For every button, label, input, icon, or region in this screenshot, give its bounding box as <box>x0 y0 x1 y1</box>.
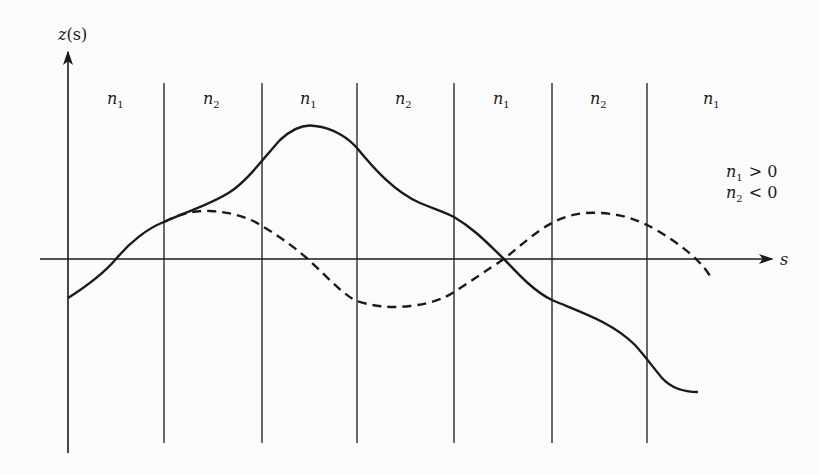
region-label: n1 <box>703 89 720 110</box>
legend: n1> 0 n2< 0 <box>726 162 777 204</box>
region-dividers <box>164 83 647 443</box>
region-label: n2 <box>395 89 412 110</box>
region-label: n2 <box>203 89 220 110</box>
legend-item-n1: n1> 0 <box>726 162 777 183</box>
region-label: n2 <box>590 89 607 110</box>
region-label: n1 <box>300 89 317 110</box>
legend-item-n2: n2< 0 <box>726 183 777 204</box>
region-labels: n1 n2 n1 n2 n1 n2 n1 <box>107 89 720 110</box>
region-label: n1 <box>493 89 510 110</box>
diagram-canvas: z(s) s n1 n2 n1 n2 n1 n2 n1 n1> 0 n2< 0 <box>0 0 819 475</box>
y-axis-label: z(s) <box>57 25 87 44</box>
x-axis-label: s <box>780 250 788 269</box>
region-label: n1 <box>107 89 124 110</box>
